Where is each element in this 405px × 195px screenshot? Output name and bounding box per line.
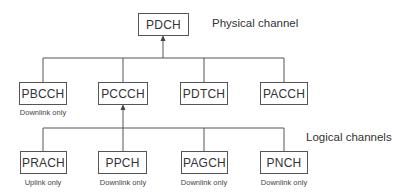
node-label: PRACH	[22, 156, 65, 170]
node-note: Downlink only	[88, 178, 158, 187]
node-label: PACCH	[263, 87, 305, 101]
node-note: Downlink only	[249, 178, 319, 187]
node-note: Downlink only	[169, 178, 239, 187]
node-label: PAGCH	[183, 156, 226, 170]
node-label: PCCCH	[101, 87, 145, 101]
node-pacch: PACCH	[260, 82, 308, 105]
node-pnch: PNCH	[260, 151, 308, 174]
node-pagch: PAGCH	[181, 151, 228, 174]
node-pccch: PCCCH	[98, 82, 148, 105]
node-pdtch: PDTCH	[180, 82, 228, 105]
node-label: PBCCH	[21, 87, 64, 101]
node-pdch: PDCH	[138, 13, 189, 36]
node-label: PNCH	[267, 156, 302, 170]
physical-channel-label: Physical channel	[212, 17, 298, 29]
logical-channels-label: Logical channels	[306, 131, 392, 143]
node-prach: PRACH	[20, 151, 67, 174]
node-pbcch: PBCCH	[19, 82, 67, 105]
node-note: Uplink only	[8, 178, 78, 187]
node-label: PDCH	[146, 18, 181, 32]
node-note: Downlink only	[8, 108, 78, 117]
node-label: PPCH	[105, 156, 139, 170]
node-label: PDTCH	[183, 87, 225, 101]
node-ppch: PPCH	[98, 151, 147, 174]
